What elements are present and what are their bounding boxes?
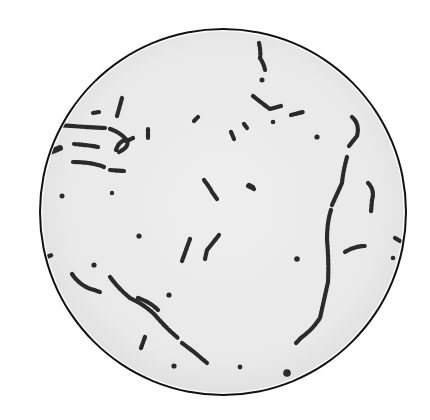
coccus (238, 365, 243, 370)
bacteria-chain (110, 170, 124, 171)
coccus (91, 262, 96, 267)
coccus (260, 78, 265, 83)
microscope-field-illustration (0, 0, 430, 420)
coccus (171, 363, 176, 368)
bacteria-chain (291, 112, 303, 115)
coccus (294, 256, 300, 262)
bacteria-chain (93, 112, 99, 113)
bacteria-chain (194, 117, 198, 121)
bacteria-chain (249, 185, 253, 187)
coccus (283, 369, 291, 377)
coccus (136, 233, 141, 238)
bacteria-chain (244, 124, 247, 128)
coccus (110, 191, 114, 195)
microscope-field (43, 32, 404, 393)
coccus (166, 292, 171, 297)
coccus (391, 256, 396, 261)
bacteria-chain (231, 132, 234, 139)
coccus (60, 194, 65, 199)
coccus (271, 120, 276, 125)
bacteria-chain (395, 238, 400, 241)
bacteria-chain (59, 305, 62, 308)
coccus (314, 134, 319, 139)
